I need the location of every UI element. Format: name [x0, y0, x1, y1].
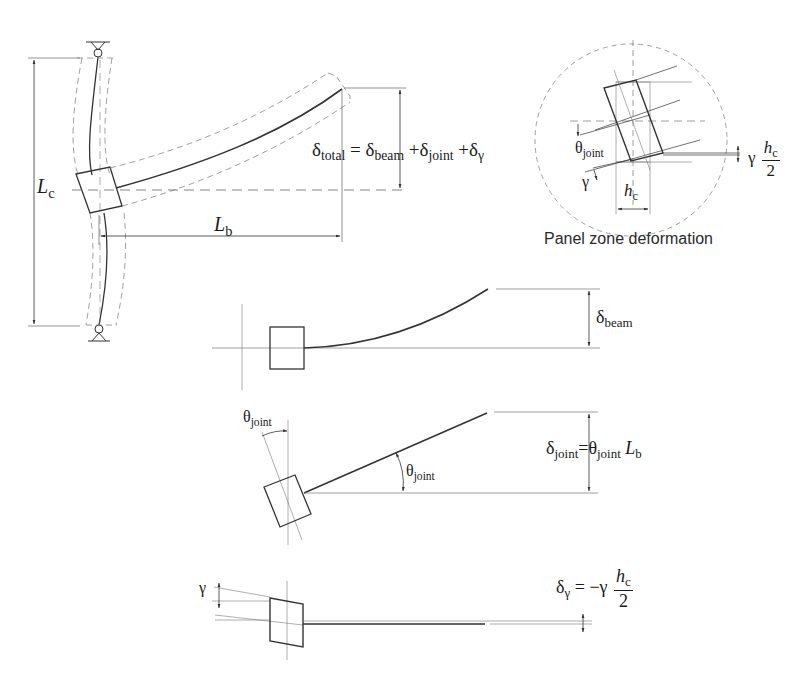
panel-hc-label: hc — [624, 182, 638, 202]
panel-gamma-label: γ — [582, 174, 589, 190]
gamma-label: γ — [199, 580, 206, 596]
theta-joint-angle-label: θjoint — [406, 463, 435, 482]
beam-deflection-component — [212, 289, 600, 390]
delta-joint-equation: δjoint=θjoint Lb — [546, 439, 642, 461]
deflected-column — [90, 57, 98, 175]
deformation-diagram — [0, 0, 802, 685]
bottom-pin-support-icon — [88, 325, 110, 341]
panel-zone-box — [76, 167, 122, 213]
panel-theta-joint-label: θjoint — [575, 140, 604, 159]
top-pin-support-icon — [86, 42, 110, 57]
delta-beam-label: δbeam — [596, 308, 633, 330]
theta-joint-top-label: θjoint — [243, 409, 272, 428]
label-lb: Lb — [214, 214, 232, 238]
deflected-beam — [116, 89, 342, 188]
delta-total-equation: δtotal = δbeam +δjoint +δγ — [312, 140, 484, 163]
delta-gamma-equation: δγ = −γ hc2 — [556, 567, 633, 610]
label-lc: Lc — [37, 176, 55, 200]
panel-shear-component — [212, 581, 592, 660]
panel-zone-caption: Panel zone deformation — [544, 231, 713, 247]
main-frame — [28, 42, 406, 341]
panel-offset-label: γ hc2 — [748, 139, 780, 179]
panel-zone-detail — [535, 40, 740, 236]
